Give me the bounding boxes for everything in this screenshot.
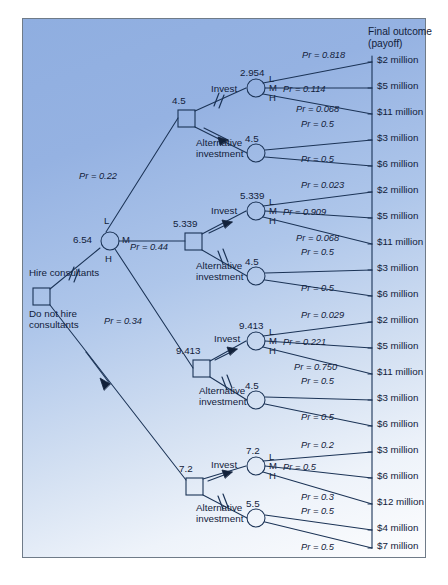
label-alternative-M-line2: investment	[196, 272, 243, 283]
chosen-arrow-invest-H	[215, 347, 237, 360]
payoff-12: $5 million	[377, 341, 418, 351]
decision-square-M	[185, 233, 202, 250]
pr-outcome-9: Pr = 0.5	[301, 248, 334, 258]
pr-outcome-16: Pr = 0.2	[301, 441, 334, 451]
payoff-1: $2 million	[377, 55, 418, 65]
payoff-header-line1: Final outcome	[368, 26, 432, 38]
state-label-H: H	[105, 254, 112, 264]
pr-outcome-2: Pr = 0.114	[283, 85, 325, 95]
payoff-18: $12 million	[377, 497, 424, 507]
state-H-invest-L: H	[269, 93, 276, 103]
pr-outcome-15: Pr = 0.5	[301, 413, 334, 423]
state-label-M: M	[122, 235, 130, 245]
state-H-invest-NO: H	[269, 471, 276, 481]
outcome-line-17	[265, 466, 372, 478]
branch-do-not-hire	[50, 305, 186, 480]
label-do-not-hire-line2: consultants	[29, 320, 79, 330]
ev-group-M: 5.339	[173, 219, 198, 229]
label-alternative-H-line1: Alternative	[199, 386, 245, 397]
outcome-line-4	[265, 140, 372, 150]
outcome-line-9	[265, 270, 372, 273]
state-H-invest-M: H	[269, 216, 276, 226]
chance-node-alternative-NO	[247, 509, 265, 527]
label-invest-M: Invest	[211, 206, 237, 216]
ev-group-H: 9.413	[176, 346, 201, 356]
pr-outcome-5: Pr = 0.5	[301, 155, 334, 165]
pr-outcome-19: Pr = 0.5	[301, 507, 334, 517]
pr-outcome-11: Pr = 0.029	[301, 311, 344, 321]
ev-invest-node-M: 5.339	[240, 191, 265, 201]
label-invest-L: Invest	[211, 84, 237, 94]
chance-node-invest-H	[247, 332, 265, 350]
consultant-chance-node	[101, 232, 119, 250]
ev-consultant-node: 6.54	[73, 235, 92, 245]
pr-outcome-13: Pr = 0.750	[294, 363, 337, 373]
outcome-line-19	[265, 515, 372, 530]
payoff-8: $11 million	[377, 237, 423, 247]
payoff-header-line2: (payoff)	[368, 38, 402, 50]
outcome-line-14	[265, 397, 372, 400]
payoff-ticks	[368, 62, 372, 548]
ev-alternative-node-H: 4.5	[245, 381, 259, 391]
decision-square-H	[193, 360, 210, 377]
root-decision-square	[33, 288, 50, 305]
ev-group-L: 4.5	[172, 96, 186, 106]
payoff-17: $6 million	[377, 471, 418, 481]
chosen-arrow-do-not-hire	[86, 352, 110, 390]
pr-outcome-3: Pr = 0.068	[296, 105, 339, 115]
pr-outcome-1: Pr = 0.818	[302, 51, 345, 61]
pr-outcome-10: Pr = 0.5	[301, 284, 334, 294]
chance-node-alternative-L	[247, 144, 265, 162]
figure-canvas: Final outcome (payoff) Hire consultants …	[0, 0, 448, 585]
pr-state-L: Pr = 0.22	[79, 172, 117, 182]
outcome-line-11	[263, 322, 372, 336]
payoff-15: $6 million	[377, 419, 418, 429]
ev-invest-node-H: 9.413	[239, 321, 264, 331]
chance-node-invest-NO	[247, 457, 265, 475]
payoff-10: $6 million	[377, 289, 418, 299]
payoff-6: $2 million	[377, 185, 418, 195]
ev-alternative-node-M: 4.5	[245, 257, 259, 267]
pr-outcome-17: Pr = 0.5	[283, 463, 316, 473]
payoff-3: $11 million	[377, 107, 423, 117]
payoff-13: $11 million	[377, 367, 423, 377]
label-alternative-L-line1: Alternative	[196, 138, 242, 149]
chance-node-alternative-H	[247, 391, 265, 409]
ev-invest-node-NO: 7.2	[246, 446, 260, 456]
payoff-9: $3 million	[377, 263, 418, 273]
label-alternative-L-line2: investment	[196, 149, 243, 160]
payoff-4: $3 million	[377, 133, 418, 143]
pr-outcome-7: Pr = 0.909	[283, 208, 326, 218]
decision-square-L	[178, 110, 195, 127]
pr-outcome-4: Pr = 0.5	[301, 120, 334, 130]
payoff-7: $5 million	[377, 211, 418, 221]
pr-outcome-6: Pr = 0.023	[301, 181, 344, 191]
pr-outcome-14: Pr = 0.5	[301, 377, 334, 387]
decision-square-no-hire	[186, 478, 203, 495]
label-hire-consultants: Hire consultants	[29, 268, 99, 278]
outcome-line-1	[263, 62, 372, 83]
pr-outcome-12: Pr = 0.221	[283, 338, 326, 348]
pr-outcome-8: Pr = 0.068	[296, 234, 339, 244]
pr-state-M: Pr = 0.44	[130, 243, 168, 253]
chance-node-alternative-M	[247, 267, 265, 285]
pr-outcome-20: Pr = 0.5	[301, 543, 334, 553]
payoff-19: $4 million	[377, 523, 418, 533]
label-invest-H: Invest	[214, 334, 240, 344]
ev-group-NO: 7.2	[179, 464, 193, 474]
payoff-2: $5 million	[377, 81, 418, 91]
label-do-not-hire-line1: Do not hire	[29, 309, 77, 319]
payoff-20: $7 million	[377, 541, 418, 551]
payoff-11: $2 million	[377, 315, 418, 325]
label-alternative-NO-line2: investment	[196, 514, 243, 525]
chance-node-invest-M	[247, 202, 265, 220]
chosen-arrow-invest-NO	[208, 470, 232, 481]
ev-invest-node-L: 2.954	[240, 68, 265, 78]
label-alternative-M-line1: Alternative	[196, 261, 242, 272]
chosen-arrow-invest-M	[209, 220, 232, 233]
outcome-line-6	[263, 192, 372, 206]
label-invest-NO: Invest	[211, 460, 237, 470]
pr-outcome-18: Pr = 0.3	[301, 493, 334, 503]
ev-alternative-node-L: 4.5	[245, 134, 259, 144]
state-label-L: L	[104, 216, 109, 226]
